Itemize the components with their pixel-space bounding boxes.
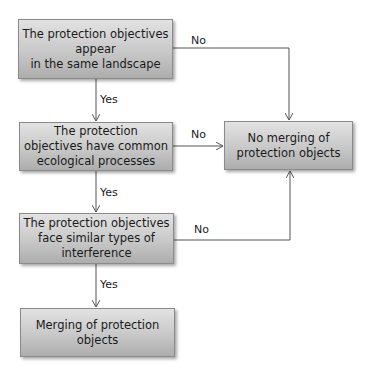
edge-label-no-3: No [194,223,209,236]
node-text: The protection objectives have common ec… [24,124,168,169]
edge-label-yes-1: Yes [100,93,118,106]
decision-same-landscape: The protection objectives appear in the … [18,19,173,79]
node-text: No merging of protection objects [237,131,341,161]
result-no-merging: No merging of protection objects [224,121,353,170]
edge-label-yes-2: Yes [100,186,118,199]
edge-label-no-2: No [191,128,206,141]
node-text: The protection objectives appear in the … [23,27,169,72]
node-text: The protection objectives face similar t… [24,216,170,261]
decision-similar-interference: The protection objectives face similar t… [19,213,174,264]
decision-common-processes: The protection objectives have common ec… [19,122,173,171]
edge-label-no-1: No [191,34,206,47]
edge-label-yes-3: Yes [100,278,118,291]
result-merging: Merging of protection objects [20,308,175,357]
node-text: Merging of protection objects [36,318,160,348]
